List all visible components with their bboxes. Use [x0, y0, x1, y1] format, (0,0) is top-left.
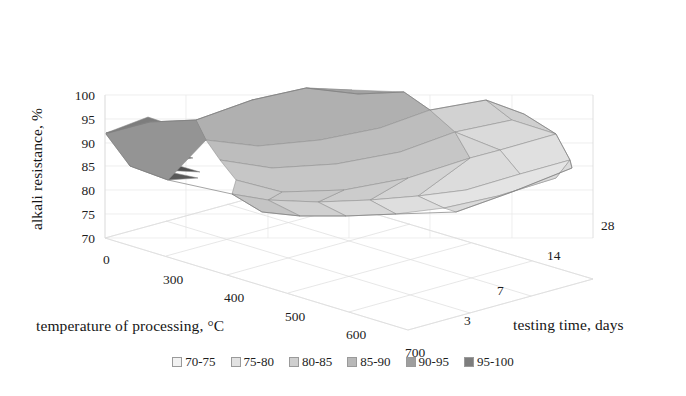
- x-tick-600: 600: [346, 327, 366, 343]
- legend-label: 80-85: [302, 354, 332, 370]
- y-tick-label: 95: [82, 112, 96, 127]
- y-tick-75: 75: [61, 207, 95, 223]
- surface-plot-canvas: .gridline { stroke: #dcdcdc; stroke-widt…: [0, 0, 686, 396]
- y-tick-95: 95: [61, 112, 95, 128]
- x-tick-label: 500: [285, 309, 305, 324]
- y-tick-90: 90: [61, 136, 95, 152]
- legend-label: 90-95: [419, 354, 449, 370]
- legend-label: 75-80: [244, 354, 274, 370]
- surface-chart: .gridline { stroke: #dcdcdc; stroke-widt…: [0, 0, 686, 396]
- x-axis-title: temperature of processing, °C: [36, 317, 224, 335]
- x-tick-300: 300: [163, 272, 183, 288]
- y-tick-70: 70: [61, 231, 95, 247]
- z-tick-14: 14: [547, 248, 561, 264]
- legend-label: 70-75: [185, 354, 215, 370]
- legend-item-90-95[interactable]: 90-95: [406, 354, 449, 370]
- y-tick-label: 85: [82, 159, 96, 174]
- y-tick-label: 80: [82, 183, 96, 198]
- legend-swatch-icon: [231, 357, 241, 367]
- legend-item-75-80[interactable]: 75-80: [231, 354, 274, 370]
- y-tick-85: 85: [61, 159, 95, 175]
- y-tick-label: 90: [82, 136, 96, 151]
- x-tick-500: 500: [285, 309, 305, 325]
- y-tick-100: 100: [61, 88, 95, 104]
- y-tick-label: 70: [82, 231, 96, 246]
- y-axis-title: alkali resistance, %: [28, 64, 46, 274]
- z-tick-3: 3: [464, 313, 471, 329]
- z-tick-label: 14: [547, 248, 561, 263]
- surface-facets: [106, 88, 572, 216]
- z-tick-label: 7: [497, 283, 504, 298]
- y-tick-label: 100: [75, 88, 95, 103]
- x-tick-label: 400: [224, 290, 244, 305]
- legend-item-85-90[interactable]: 85-90: [347, 354, 390, 370]
- x-tick-label: 300: [163, 272, 183, 287]
- legend-item-70-75[interactable]: 70-75: [172, 354, 215, 370]
- x-tick-label: 600: [346, 327, 366, 342]
- x-tick-label: 0: [103, 252, 110, 267]
- legend-item-95-100[interactable]: 95-100: [464, 354, 514, 370]
- legend-swatch-icon: [464, 357, 474, 367]
- z-tick-7: 7: [497, 283, 504, 299]
- x-tick-0: 0: [103, 252, 110, 268]
- z-tick-label: 28: [601, 218, 615, 233]
- z-tick-28: 28: [601, 218, 615, 234]
- z-tick-label: 3: [464, 313, 471, 328]
- y-tick-label: 75: [82, 207, 96, 222]
- z-axis-title: testing time, days: [513, 316, 624, 334]
- legend-swatch-icon: [406, 357, 416, 367]
- legend-label: 95-100: [477, 354, 514, 370]
- legend-label: 85-90: [360, 354, 390, 370]
- legend: 70-75 75-80 80-85 85-90 90-95 95-100: [0, 354, 686, 370]
- legend-swatch-icon: [289, 357, 299, 367]
- legend-swatch-icon: [347, 357, 357, 367]
- x-tick-400: 400: [224, 290, 244, 306]
- y-tick-80: 80: [61, 183, 95, 199]
- legend-swatch-icon: [172, 357, 182, 367]
- legend-item-80-85[interactable]: 80-85: [289, 354, 332, 370]
